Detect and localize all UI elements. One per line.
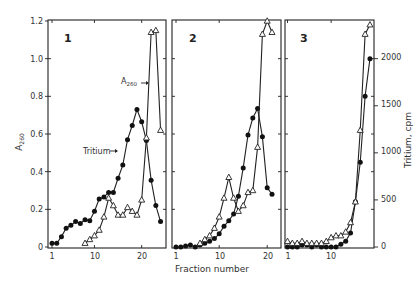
left-axis: 0 0.2 0.4 0.6 0.8 1.0 1.2 xyxy=(30,17,378,252)
panel-3-frame xyxy=(285,20,374,248)
filled-circle-marker xyxy=(101,195,106,200)
filled-circle-marker xyxy=(217,231,222,236)
right-tick-1500: 1500 xyxy=(381,100,401,109)
fraction-profile-figure: 1 2 3 0 0.2 0.4 0.6 0.8 1.0 1.2 A260 0 5… xyxy=(0,0,420,285)
filled-circle-marker xyxy=(116,176,121,181)
filled-circle-marker xyxy=(178,245,183,250)
open-triangle-marker xyxy=(255,144,261,149)
open-triangle-marker xyxy=(240,202,246,207)
open-triangle-marker xyxy=(101,214,107,219)
filled-circle-marker xyxy=(92,209,97,214)
right-tick-0: 0 xyxy=(381,242,386,251)
left-tick-0.6: 0.6 xyxy=(30,130,43,139)
filled-circle-marker xyxy=(343,239,348,244)
left-tick-0: 0 xyxy=(38,243,43,252)
filled-circle-marker xyxy=(338,242,343,247)
filled-circle-marker xyxy=(73,219,78,224)
filled-circle-marker xyxy=(270,192,275,197)
p2-xtick-1: 1 xyxy=(173,252,178,261)
x-axis-title: Fraction number xyxy=(175,264,249,274)
filled-circle-marker xyxy=(260,134,265,139)
left-tick-1.2: 1.2 xyxy=(30,17,43,26)
p1-xtick-1: 1 xyxy=(49,252,54,261)
filled-circle-marker xyxy=(54,241,59,246)
filled-circle-marker xyxy=(265,185,270,190)
right-axis: 0 500 1000 1500 2000 xyxy=(381,53,401,251)
filled-circle-marker xyxy=(87,218,92,223)
filled-circle-marker xyxy=(188,243,193,248)
right-tick-500: 500 xyxy=(381,195,396,204)
panel-3-label: 3 xyxy=(300,32,308,45)
filled-circle-marker xyxy=(250,115,255,120)
filled-circle-marker xyxy=(139,119,144,124)
left-tick-0.8: 0.8 xyxy=(30,92,43,101)
filled-circle-marker xyxy=(50,241,55,246)
p3-xtick-10: 10 xyxy=(326,252,336,261)
left-tick-0.2: 0.2 xyxy=(30,205,43,214)
open-triangle-marker xyxy=(343,229,349,234)
panel-1-label: 1 xyxy=(64,32,72,45)
tritium-line xyxy=(288,59,370,247)
filled-circle-marker xyxy=(241,165,246,170)
open-triangle-marker xyxy=(362,31,368,36)
tritium-line xyxy=(52,110,161,244)
open-triangle-marker xyxy=(125,204,131,209)
filled-circle-marker xyxy=(334,245,339,250)
open-triangle-marker xyxy=(231,195,237,200)
panel-2-label: 2 xyxy=(189,32,197,45)
filled-circle-marker xyxy=(329,245,334,250)
filled-circle-marker xyxy=(222,224,227,229)
filled-circle-marker xyxy=(348,230,353,235)
arrow-icon xyxy=(115,149,118,153)
right-axis-title: Tritium, cpm xyxy=(403,112,413,169)
open-triangle-marker xyxy=(153,27,159,32)
x-axis-ticks: 1 10 20 1 10 20 1 10 xyxy=(49,252,336,261)
right-tick-2000: 2000 xyxy=(381,53,401,62)
open-triangle-marker xyxy=(299,238,305,243)
filled-circle-marker xyxy=(64,226,69,231)
filled-circle-marker xyxy=(125,137,130,142)
annotation-a260: A260 xyxy=(121,77,149,87)
open-triangle-marker xyxy=(367,22,373,27)
open-triangle-marker xyxy=(250,187,256,192)
filled-circle-marker xyxy=(153,203,158,208)
open-triangle-marker xyxy=(221,195,227,200)
filled-circle-marker xyxy=(363,94,368,99)
filled-circle-marker xyxy=(226,218,231,223)
filled-circle-marker xyxy=(231,212,236,217)
left-tick-0.4: 0.4 xyxy=(30,168,43,177)
panel-1-frame xyxy=(48,20,166,248)
open-triangle-marker xyxy=(259,31,265,36)
p1-xtick-10: 10 xyxy=(90,252,100,261)
p1-xtick-20: 20 xyxy=(137,252,147,261)
open-triangle-marker xyxy=(211,225,217,230)
panel-3-series xyxy=(285,22,373,250)
right-tick-1000: 1000 xyxy=(381,147,401,156)
filled-circle-marker xyxy=(158,219,163,224)
filled-circle-marker xyxy=(78,221,83,226)
svg-text:A260: A260 xyxy=(121,77,137,87)
filled-circle-marker xyxy=(130,123,135,128)
panel-2-series xyxy=(174,18,276,250)
a260-line xyxy=(288,25,370,243)
filled-circle-marker xyxy=(246,132,251,137)
filled-circle-marker xyxy=(212,236,217,241)
open-triangle-marker xyxy=(143,135,149,140)
open-triangle-marker xyxy=(139,197,145,202)
filled-circle-marker xyxy=(183,244,188,249)
open-triangle-marker xyxy=(226,174,232,179)
p2-xtick-20: 20 xyxy=(263,252,273,261)
panel-2-frame xyxy=(172,20,281,248)
filled-circle-marker xyxy=(111,190,116,195)
filled-circle-marker xyxy=(120,163,125,168)
open-triangle-marker xyxy=(106,195,112,200)
left-axis-title: A260 xyxy=(14,133,25,151)
svg-text:Tritium: Tritium xyxy=(82,147,111,156)
left-tick-1.0: 1.0 xyxy=(30,55,43,64)
open-triangle-marker xyxy=(216,214,222,219)
filled-circle-marker xyxy=(68,223,73,228)
panel-1-series xyxy=(50,27,164,246)
plot-series xyxy=(50,18,373,250)
open-triangle-marker xyxy=(96,227,102,232)
filled-circle-marker xyxy=(149,178,154,183)
